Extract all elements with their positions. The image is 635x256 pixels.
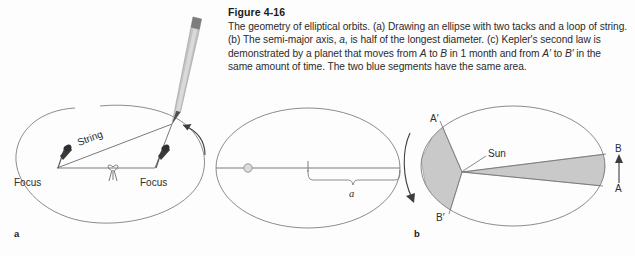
- ab-direction-arrow: [615, 154, 623, 183]
- sector-far-ab: [462, 154, 606, 186]
- string-left-segment: [57, 124, 172, 168]
- label-focus-right: Focus: [140, 177, 167, 188]
- panel-letter-a: a: [14, 228, 19, 239]
- figure-root: Figure 4-16 The geometry of elliptical o…: [0, 0, 635, 256]
- label-b-prime: B′: [436, 212, 445, 223]
- orbit-direction-arrow: [404, 133, 415, 203]
- label-semi-major-axis: a: [349, 188, 354, 199]
- panel-c: Sun A′ B′ B A c: [400, 0, 635, 256]
- panel-b: a b: [200, 0, 420, 256]
- label-string: String: [76, 128, 104, 148]
- panel-a: Focus Focus String a: [0, 0, 215, 256]
- ellipse-outline-a: [16, 105, 205, 223]
- tack-right: [156, 143, 171, 168]
- panel-c-drawing: Sun A′ B′ B A: [400, 0, 635, 256]
- sector-near-abprime: [421, 121, 462, 214]
- label-b: B: [615, 143, 622, 154]
- sun-leader-line: [463, 156, 486, 171]
- sun-marker-b: [244, 164, 252, 172]
- label-sun: Sun: [488, 148, 506, 159]
- label-a: A: [615, 183, 622, 194]
- label-focus-left: Focus: [14, 177, 41, 188]
- panel-a-drawing: Focus Focus String: [0, 0, 215, 256]
- semi-major-brace: [308, 170, 400, 185]
- panel-b-drawing: a: [200, 0, 420, 256]
- label-a-prime: A′: [430, 113, 439, 124]
- string-knot: [108, 165, 118, 181]
- pencil-icon: [172, 17, 202, 124]
